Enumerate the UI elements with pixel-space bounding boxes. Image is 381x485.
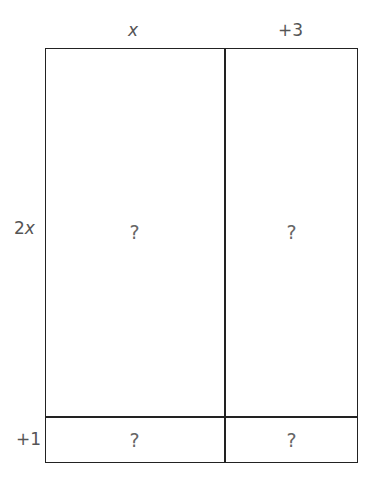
row-label-2x: 2x (14, 220, 35, 237)
column-label-x: x (128, 22, 138, 39)
cell-2x-by-3: ? (225, 48, 358, 416)
cell-1-by-x: ? (45, 417, 224, 463)
cell-1-by-3: ? (225, 417, 358, 463)
cell-2x-by-x: ? (45, 48, 224, 416)
row-label-plus1: +1 (16, 431, 41, 448)
column-label-plus3: +3 (278, 22, 303, 39)
